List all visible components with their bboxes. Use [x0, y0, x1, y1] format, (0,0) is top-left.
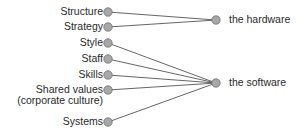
- label-the-hardware: the hardware: [229, 14, 290, 25]
- node-structure: [104, 8, 112, 16]
- node-systems: [104, 118, 112, 126]
- edge-strategy-hardware: [108, 20, 216, 27]
- node-shared_values: [104, 86, 112, 94]
- node-staff: [104, 55, 112, 63]
- label-the-software: the software: [229, 77, 286, 88]
- label-structure: Structure: [60, 6, 103, 17]
- label-staff: Staff: [82, 53, 103, 64]
- label-corporate-culture: (corporate culture): [17, 95, 103, 106]
- node-skills: [104, 71, 112, 79]
- edge-structure-hardware: [108, 12, 216, 20]
- node-software: [212, 79, 220, 87]
- node-hardware: [212, 16, 220, 24]
- node-strategy: [104, 23, 112, 31]
- label-skills: Skills: [78, 69, 103, 80]
- label-systems: Systems: [63, 116, 103, 127]
- label-strategy: Strategy: [64, 21, 103, 32]
- label-style: Style: [80, 37, 103, 48]
- node-style: [104, 39, 112, 47]
